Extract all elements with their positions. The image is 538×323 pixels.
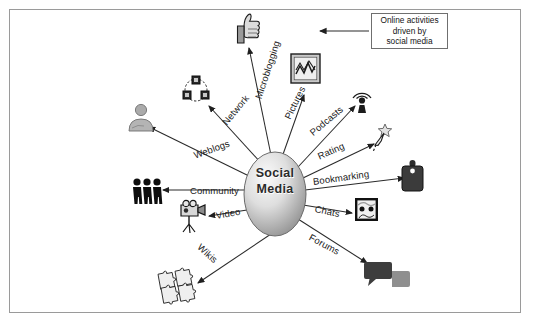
puzzle-pieces-icon: [158, 268, 196, 304]
chat-window-icon: [355, 198, 378, 221]
callout-line-3: social media: [386, 36, 432, 47]
framed-picture-icon: [291, 54, 320, 83]
branch-label-community: Community: [190, 185, 239, 196]
person-silhouette-icon: [129, 104, 153, 131]
broadcast-tower-icon: [353, 93, 371, 113]
star-cursor-icon: [373, 124, 392, 152]
diagram-canvas: Social Media Online activities driven by…: [0, 0, 538, 323]
center-label: Social Media: [245, 165, 305, 197]
network-nodes-icon: [183, 76, 209, 101]
center-label-line1: Social: [256, 166, 295, 180]
callout-box: Online activities driven by social media: [371, 13, 448, 49]
tag-icon: [402, 160, 423, 191]
callout-line-2: driven by: [393, 26, 427, 37]
speech-bubbles-icon: [364, 262, 410, 287]
center-label-line2: Media: [257, 182, 294, 196]
three-people-icon: [133, 178, 162, 204]
camcorder-icon: [181, 200, 205, 233]
thumbs-up-icon: [238, 14, 260, 43]
callout-line-1: Online activities: [380, 15, 438, 26]
